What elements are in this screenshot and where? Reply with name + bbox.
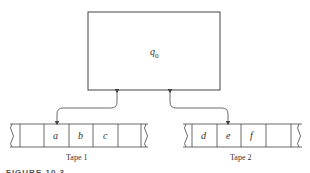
tape1-label: Tape 1: [66, 153, 87, 162]
control-unit: q0: [88, 12, 220, 90]
tape1-cell-a: a: [53, 130, 58, 141]
read-write-head-arrow-tape1: [57, 91, 117, 123]
tape2-cell-d: d: [201, 130, 207, 141]
tape1-cell-c: c: [103, 130, 108, 141]
read-write-head-arrow-tape2: [170, 91, 228, 123]
figure-caption: FIGURE 10.3: [6, 168, 65, 173]
tape2-cell-f: f: [250, 130, 254, 141]
tape1-cell-b: b: [78, 130, 83, 141]
two-tape-turing-machine-diagram: q0 a b c Tape 1 d e f Tape 2 FIGURE 10.3: [0, 0, 310, 173]
state-label: q0: [150, 46, 159, 60]
tape2-cell-e: e: [226, 130, 231, 141]
tape2-label: Tape 2: [230, 153, 251, 162]
